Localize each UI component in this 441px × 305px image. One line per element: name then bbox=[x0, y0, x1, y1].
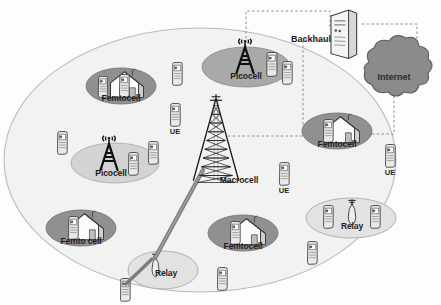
node-relay-right[interactable] bbox=[306, 198, 396, 238]
ue-icon bbox=[283, 62, 293, 85]
ue-icon bbox=[324, 120, 334, 143]
node-femtocell-bottomcenter[interactable] bbox=[208, 215, 278, 251]
ue-icon bbox=[120, 75, 130, 98]
server-icon bbox=[331, 10, 357, 58]
node-femtocell-topleft[interactable] bbox=[86, 68, 156, 104]
ue-icon bbox=[98, 76, 107, 97]
ue-icon bbox=[324, 206, 334, 229]
ue-icon bbox=[129, 153, 139, 176]
node-femtocell-right[interactable] bbox=[302, 113, 372, 149]
cloud-icon bbox=[364, 36, 432, 96]
node-backhaul[interactable] bbox=[331, 10, 357, 58]
ue-icon bbox=[173, 63, 183, 86]
ue-icon bbox=[308, 242, 318, 265]
network-diagram-canvas: Picocell Picocell Femtocell Femto cell F… bbox=[0, 0, 441, 305]
node-femtocell-bottomleft[interactable] bbox=[46, 210, 116, 246]
ue-icon bbox=[149, 142, 159, 165]
topology-svg bbox=[0, 0, 441, 305]
ue-icon bbox=[58, 132, 68, 155]
node-internet[interactable] bbox=[364, 36, 432, 96]
ue-icon bbox=[218, 268, 228, 291]
ue-icon bbox=[371, 206, 381, 229]
ue-icon bbox=[267, 52, 277, 76]
ue-icon bbox=[231, 222, 241, 245]
macro-coverage-area bbox=[4, 28, 396, 292]
ue-icon bbox=[69, 217, 79, 240]
